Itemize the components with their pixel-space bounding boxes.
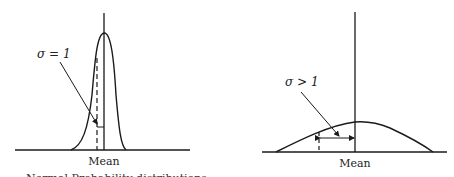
right-sigma-label: σ > 1 <box>285 75 319 89</box>
normal-distribution-figure: σ = 1 Mean σ > 1 Mean Normal Probability… <box>0 0 454 177</box>
left-mean-label: Mean <box>88 155 119 168</box>
left-pointer-arrow <box>60 62 97 124</box>
left-sigma-label: σ = 1 <box>37 47 71 61</box>
left-panel: σ = 1 Mean <box>15 13 190 168</box>
right-pointer-arrow <box>301 92 339 136</box>
figure-caption-partial: Normal Probability distributions <box>26 172 207 177</box>
right-mean-label: Mean <box>339 157 370 170</box>
right-panel: σ > 1 Mean <box>262 12 447 170</box>
left-narrow-curve <box>71 33 126 150</box>
